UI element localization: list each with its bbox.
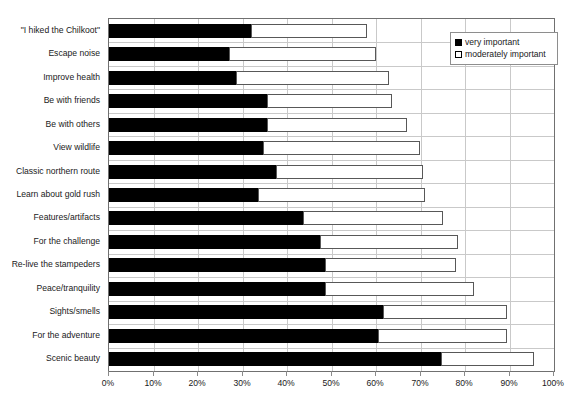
legend-item-moderately-important: moderately important xyxy=(455,48,552,60)
axis-tick-label: 100% xyxy=(533,378,573,388)
bar-segment-very-important xyxy=(109,352,441,366)
bar-segment-very-important xyxy=(109,118,267,132)
bar-segment-moderately-important xyxy=(303,211,443,225)
bar-row xyxy=(109,352,554,366)
axis-tick xyxy=(553,371,554,376)
category-label: Peace/tranquility xyxy=(36,283,100,293)
bar-row xyxy=(109,71,554,85)
legend-item-very-important: very important xyxy=(455,36,552,48)
bar-row xyxy=(109,94,554,108)
bar-row xyxy=(109,305,554,319)
bar-segment-moderately-important xyxy=(236,71,390,85)
bar-segment-very-important xyxy=(109,235,320,249)
axis-tick-label: 10% xyxy=(133,378,173,388)
axis-tick xyxy=(197,371,198,376)
bar-segment-very-important xyxy=(109,141,263,155)
axis-tick xyxy=(153,371,154,376)
category-label: Be with others xyxy=(46,119,100,129)
category-label: Scenic beauty xyxy=(46,353,100,363)
category-label: Re-live the stampeders xyxy=(12,259,100,269)
bar-row xyxy=(109,282,554,296)
category-label: For the adventure xyxy=(32,330,100,340)
axis-tick-label: 0% xyxy=(88,378,128,388)
axis-tick xyxy=(286,371,287,376)
category-label: Features/artifacts xyxy=(34,212,100,222)
gridline-horizontal xyxy=(109,89,554,90)
bar-segment-very-important xyxy=(109,211,303,225)
bar-segment-moderately-important xyxy=(325,282,474,296)
category-label: Improve health xyxy=(43,72,100,82)
gridline-horizontal xyxy=(109,254,554,255)
bar-row xyxy=(109,141,554,155)
axis-tick-label: 60% xyxy=(355,378,395,388)
axis-tick-label: 90% xyxy=(489,378,529,388)
category-label: "I hiked the Chilkoot" xyxy=(21,25,100,35)
bar-segment-moderately-important xyxy=(258,188,425,202)
category-label: Sights/smells xyxy=(49,306,100,316)
gridline-horizontal xyxy=(109,277,554,278)
gridline-horizontal xyxy=(109,301,554,302)
bar-row xyxy=(109,165,554,179)
category-label: Learn about gold rush xyxy=(16,189,100,199)
axis-tick xyxy=(509,371,510,376)
axis-tick-label: 30% xyxy=(222,378,262,388)
bar-segment-very-important xyxy=(109,282,325,296)
bar-segment-moderately-important xyxy=(267,94,392,108)
axis-tick xyxy=(331,371,332,376)
chart-title xyxy=(0,0,574,2)
category-label: For the challenge xyxy=(34,236,100,246)
axis-tick-label: 70% xyxy=(400,378,440,388)
open-square-icon xyxy=(455,51,462,58)
bar-segment-moderately-important xyxy=(276,165,423,179)
axis-tick-label: 20% xyxy=(177,378,217,388)
gridline-horizontal xyxy=(109,183,554,184)
bar-segment-very-important xyxy=(109,24,251,38)
gridline-horizontal xyxy=(109,66,554,67)
axis-tick xyxy=(420,371,421,376)
filled-square-icon xyxy=(455,39,462,46)
bar-row xyxy=(109,188,554,202)
category-label: Classic northern route xyxy=(16,166,100,176)
bar-row xyxy=(109,211,554,225)
bar-segment-very-important xyxy=(109,258,325,272)
bar-segment-very-important xyxy=(109,329,378,343)
bar-row xyxy=(109,329,554,343)
gridline-horizontal xyxy=(109,113,554,114)
bar-segment-very-important xyxy=(109,71,236,85)
gridline-horizontal xyxy=(109,136,554,137)
bar-segment-moderately-important xyxy=(378,329,507,343)
bar-row xyxy=(109,235,554,249)
bar-row xyxy=(109,258,554,272)
axis-tick xyxy=(108,371,109,376)
legend-label: moderately important xyxy=(465,48,546,60)
legend-label: very important xyxy=(465,36,519,48)
gridline-horizontal xyxy=(109,324,554,325)
axis-tick xyxy=(464,371,465,376)
gridline-horizontal xyxy=(109,160,554,161)
bar-segment-moderately-important xyxy=(251,24,367,38)
bar-segment-moderately-important xyxy=(325,258,456,272)
bar-segment-very-important xyxy=(109,47,229,61)
category-label: View wildlife xyxy=(53,142,100,152)
bar-segment-very-important xyxy=(109,165,276,179)
gridline-horizontal xyxy=(109,207,554,208)
axis-tick-label: 50% xyxy=(311,378,351,388)
bar-segment-very-important xyxy=(109,305,383,319)
chart-legend: very important moderately important xyxy=(450,32,558,65)
horizontal-stacked-bar-chart: "I hiked the Chilkoot"Escape noiseImprov… xyxy=(0,0,574,413)
category-label: Be with friends xyxy=(44,95,100,105)
bar-segment-moderately-important xyxy=(383,305,508,319)
bar-segment-moderately-important xyxy=(229,47,376,61)
bar-segment-moderately-important xyxy=(263,141,421,155)
bar-segment-very-important xyxy=(109,188,258,202)
bar-segment-moderately-important xyxy=(441,352,534,366)
bar-segment-very-important xyxy=(109,94,267,108)
category-axis-labels: "I hiked the Chilkoot"Escape noiseImprov… xyxy=(0,18,104,370)
bar-segment-moderately-important xyxy=(320,235,458,249)
gridline-horizontal xyxy=(109,230,554,231)
axis-tick xyxy=(375,371,376,376)
axis-tick xyxy=(242,371,243,376)
axis-tick-label: 80% xyxy=(444,378,484,388)
gridline-horizontal xyxy=(109,348,554,349)
axis-tick-label: 40% xyxy=(266,378,306,388)
